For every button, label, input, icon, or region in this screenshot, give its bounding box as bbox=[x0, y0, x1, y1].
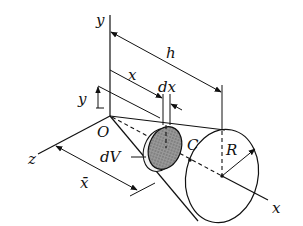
centroid-label: C bbox=[187, 136, 199, 154]
xbar-label: x̄ bbox=[80, 174, 89, 192]
base-center-dot bbox=[220, 174, 224, 178]
dx-arrow bbox=[171, 104, 182, 110]
dx-label: dx bbox=[158, 78, 177, 96]
height-label: h bbox=[166, 44, 176, 62]
y-extension-line-top bbox=[98, 86, 160, 118]
xbar-dimension-arrow bbox=[56, 146, 137, 190]
y-dimension-label: y bbox=[77, 90, 87, 108]
centroid-dot bbox=[188, 158, 192, 162]
radius-label: R bbox=[225, 141, 237, 159]
x-axis-label: x bbox=[272, 199, 281, 217]
xbar-extension-line bbox=[130, 183, 155, 196]
y-axis-label: y bbox=[95, 11, 105, 29]
dv-label: dV bbox=[100, 148, 123, 166]
origin-label: O bbox=[97, 123, 109, 141]
x-distance-label: x bbox=[128, 66, 137, 84]
cone-centroid-diagram: y z x O h x dx y dV C R x̄ bbox=[0, 0, 303, 226]
z-axis-label: z bbox=[27, 150, 36, 168]
x-axis-line bbox=[222, 176, 268, 200]
